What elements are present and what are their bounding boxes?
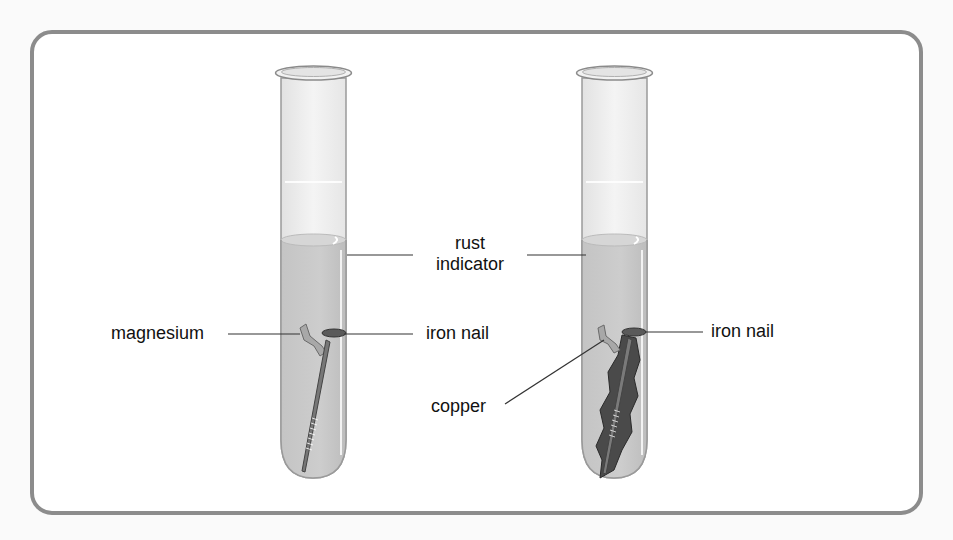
label-iron-nail-right: iron nail: [711, 321, 774, 342]
label-magnesium: magnesium: [111, 323, 204, 344]
label-rust-indicator: rust indicator: [418, 233, 522, 275]
nail-head: [322, 329, 346, 337]
label-rust: rust: [418, 233, 522, 254]
label-indicator: indicator: [418, 254, 522, 275]
rust-indicator-liquid: [281, 240, 346, 478]
label-iron-nail-left: iron nail: [426, 323, 489, 344]
test-tube-right: [577, 66, 653, 478]
label-copper: copper: [431, 396, 486, 417]
nail-head: [622, 328, 646, 336]
test-tube-left: [276, 66, 352, 478]
